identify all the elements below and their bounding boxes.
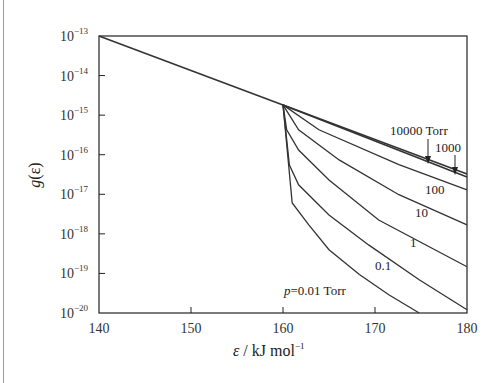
annotation-10000-torr: 10000 Torr <box>390 123 448 138</box>
annotation-1000: 1000 <box>435 140 461 155</box>
x-axis-title: ε / kJ mol−1 <box>233 341 304 359</box>
x-axis-ticks: 140150160170180 <box>89 307 478 336</box>
y-axis-title: g(ε) <box>26 162 44 187</box>
annotation-100: 100 <box>425 182 445 197</box>
x-tick-label: 150 <box>181 321 202 336</box>
y-tick-label: 10−16 <box>60 145 89 163</box>
y-tick-label: 10−14 <box>60 66 89 84</box>
annotation-p-value: =0.01 Torr <box>291 283 347 298</box>
y-tick-label: 10−20 <box>60 303 89 321</box>
x-tick-label: 170 <box>365 321 386 336</box>
y-tick-label: 10−13 <box>60 26 89 44</box>
x-tick-label: 180 <box>457 321 478 336</box>
curve-common <box>99 36 283 105</box>
y-tick-label: 10−19 <box>60 263 89 281</box>
y-tick-label: 10−15 <box>60 105 89 123</box>
x-axis-unit: / kJ mol <box>239 342 295 359</box>
y-tick-label: 10−17 <box>60 184 89 202</box>
curves <box>99 36 467 313</box>
annotation-1: 1 <box>410 235 417 250</box>
y-axis-function: g <box>26 180 44 188</box>
annotation-10: 10 <box>415 205 428 220</box>
chart: 10−1310−1410−1510−1610−1710−1810−1910−20… <box>0 0 501 383</box>
x-tick-label: 160 <box>273 321 294 336</box>
y-axis-argument: (ε) <box>26 162 44 179</box>
x-tick-label: 140 <box>89 321 110 336</box>
annotation-0-1: 0.1 <box>375 258 391 273</box>
y-tick-label: 10−18 <box>60 224 89 242</box>
x-axis-unit-exponent: −1 <box>295 341 305 351</box>
annotation-0-01-torr: p=0.01 Torr <box>283 283 346 298</box>
y-axis-ticks: 10−1310−1410−1510−1610−1710−1810−1910−20 <box>60 26 105 321</box>
plot-frame <box>99 36 467 313</box>
